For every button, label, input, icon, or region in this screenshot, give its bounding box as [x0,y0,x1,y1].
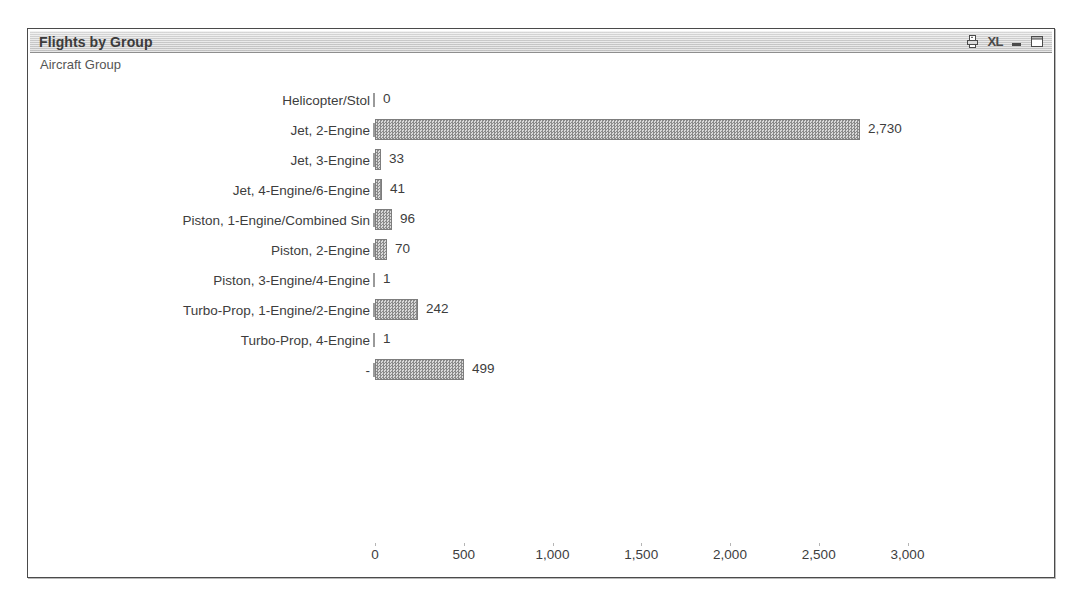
chart-row[interactable]: Helicopter/Stol0 [30,85,1052,115]
x-axis-tick-label: 3,000 [891,547,925,562]
x-axis-tick-label: 0 [371,547,379,562]
bar[interactable] [375,299,418,320]
bar-track: 70 [373,235,1052,265]
print-report-icon[interactable] [966,35,979,48]
bar-value-label: 0 [383,91,391,106]
maximize-icon[interactable] [1030,35,1044,48]
chart-row[interactable]: Jet, 2-Engine2,730 [30,115,1052,145]
bar[interactable] [375,209,392,230]
minimize-icon[interactable] [1011,35,1022,48]
x-axis-tick-mark [819,543,820,546]
x-axis-tick-label: 1,500 [624,547,658,562]
bar-value-label: 1 [383,331,391,346]
x-axis-tick-mark [553,543,554,546]
chart-row[interactable]: -499 [30,355,1052,385]
category-label[interactable]: Jet, 2-Engine [30,123,370,138]
x-axis-tick-mark [730,543,731,546]
bar-value-label: 33 [389,151,404,166]
bar-value-label: 1 [383,271,391,286]
category-label[interactable]: Piston, 1-Engine/Combined Sin [30,213,370,228]
bar-track: 0 [373,85,1052,115]
bar[interactable] [375,179,382,200]
category-label[interactable]: Turbo-Prop, 4-Engine [30,333,370,348]
category-label[interactable]: Turbo-Prop, 1-Engine/2-Engine [30,303,370,318]
bar-value-label: 242 [426,301,449,316]
category-label[interactable]: Helicopter/Stol [30,93,370,108]
bar-value-label: 2,730 [868,121,902,136]
chart-row[interactable]: Piston, 3-Engine/4-Engine1 [30,265,1052,295]
baseline-tick [373,93,375,107]
x-axis-tick-label: 1,000 [536,547,570,562]
chart-row[interactable]: Jet, 3-Engine33 [30,145,1052,175]
bar-track: 499 [373,355,1052,385]
chart-row[interactable]: Jet, 4-Engine/6-Engine41 [30,175,1052,205]
bar-track: 33 [373,145,1052,175]
bar-track: 1 [373,325,1052,355]
bar-chart-plot-area: Helicopter/Stol0Jet, 2-Engine2,730Jet, 3… [30,79,1052,575]
dimension-label: Aircraft Group [40,57,121,72]
x-axis-tick-mark [464,543,465,546]
bar[interactable] [375,239,387,260]
chart-row[interactable]: Piston, 2-Engine70 [30,235,1052,265]
bar[interactable] [375,119,860,140]
chart-row[interactable]: Turbo-Prop, 4-Engine1 [30,325,1052,355]
bar-track: 2,730 [373,115,1052,145]
bar[interactable] [375,149,381,170]
bar-track: 41 [373,175,1052,205]
bar[interactable] [375,359,464,380]
chart-row[interactable]: Piston, 1-Engine/Combined Sin96 [30,205,1052,235]
category-label[interactable]: Jet, 4-Engine/6-Engine [30,183,370,198]
bar-value-label: 499 [472,361,495,376]
page-title: Flights by Group [39,34,153,50]
flights-by-group-panel: Flights by Group XL [27,28,1055,578]
baseline-tick [373,273,375,287]
category-label[interactable]: Piston, 2-Engine [30,243,370,258]
x-axis-tick-mark [375,543,376,546]
bar-track: 1 [373,265,1052,295]
category-label[interactable]: Piston, 3-Engine/4-Engine [30,273,370,288]
x-axis-tick-label: 2,500 [802,547,836,562]
x-axis-tick-label: 500 [452,547,475,562]
bar-value-label: 96 [400,211,415,226]
category-label[interactable]: - [30,363,370,378]
panel-title-bar[interactable]: Flights by Group XL [30,31,1052,53]
chart-row[interactable]: Turbo-Prop, 1-Engine/2-Engine242 [30,295,1052,325]
x-axis-tick-label: 2,000 [713,547,747,562]
panel-content: Aircraft Group Helicopter/Stol0Jet, 2-En… [30,53,1052,575]
x-axis-tick-mark [641,543,642,546]
bar-track: 96 [373,205,1052,235]
bar-value-label: 41 [390,181,405,196]
export-excel-icon[interactable]: XL [987,36,1003,48]
category-label[interactable]: Jet, 3-Engine [30,153,370,168]
bar-track: 242 [373,295,1052,325]
baseline-tick [373,333,375,347]
x-axis-tick-mark [908,543,909,546]
x-axis: 05001,0001,5002,0002,5003,000 [373,543,1052,569]
bar-value-label: 70 [395,241,410,256]
title-bar-button-group: XL [966,35,1044,48]
